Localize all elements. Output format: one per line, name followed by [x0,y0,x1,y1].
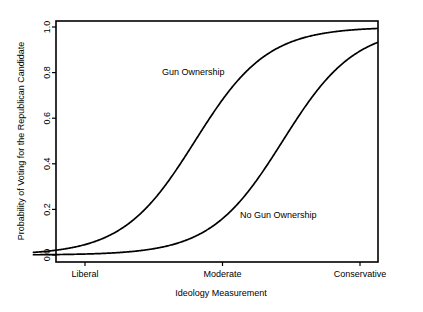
plot-canvas: 0.00.20.40.60.81.0 LiberalModerateConser… [0,0,423,312]
y-tick-label: 0.4 [42,158,52,171]
chart-figure: 0.00.20.40.60.81.0 LiberalModerateConser… [0,0,423,312]
curve-label-no-gun-ownership: No Gun Ownership [240,210,317,220]
y-tick-label: 1.0 [42,21,52,34]
y-axis-title: Probability of Voting for the Republican… [16,42,26,241]
y-tick-label: 0.6 [42,112,52,125]
x-tick-label: Conservative [334,269,387,279]
x-axis-title: Ideology Measurement [175,288,267,298]
y-tick-label: 0.8 [42,66,52,79]
x-tick-label: Liberal [71,269,98,279]
curve-label-gun-ownership: Gun Ownership [162,67,225,77]
x-tick-label: Moderate [203,269,241,279]
y-tick-label: 0.2 [42,203,52,216]
